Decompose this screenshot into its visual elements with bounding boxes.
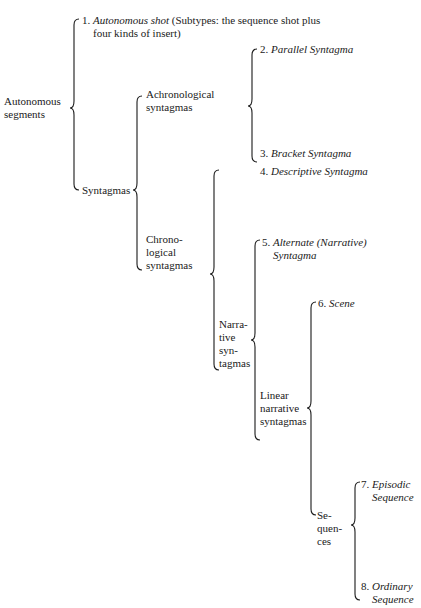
node-episodic-sequence: 7. Episodic Sequence — [361, 478, 414, 504]
node-line: logical — [146, 246, 192, 259]
node-number: 1. — [82, 14, 90, 26]
brace-autonomous-segments — [70, 19, 79, 190]
node-desc: (Subtypes: the sequence shot plus — [172, 14, 320, 26]
node-title: Alternate (Narrative) — [273, 236, 367, 248]
node-number: 3. — [260, 147, 268, 159]
node-title: Episodic — [372, 478, 411, 490]
node-line: syntagmas — [260, 415, 306, 428]
node-ordinary-sequence: 8. Ordinary Sequence — [361, 580, 414, 606]
node-line: Se- — [317, 509, 342, 522]
node-line: narrative — [260, 402, 306, 415]
node-line: quen- — [317, 522, 342, 535]
node-title-line2: Syntagma — [262, 249, 367, 262]
root-label: Autonomous segments — [4, 95, 61, 121]
node-sequences: Se- quen- ces — [317, 509, 342, 548]
node-line: tive — [219, 331, 250, 344]
node-narrative: Narra- tive syn- tagmas — [219, 318, 250, 370]
brace-chronological — [210, 170, 219, 370]
node-desc-line2: four kinds of insert) — [82, 27, 320, 40]
node-number: 4. — [260, 165, 268, 177]
node-title: Autonomous shot — [93, 14, 169, 26]
node-title: Bracket Syntagma — [271, 147, 351, 159]
node-number: 2. — [260, 43, 268, 55]
brace-achronological — [248, 49, 257, 162]
node-bracket-syntagma: 3. Bracket Syntagma — [260, 147, 351, 160]
node-number: 8. — [361, 580, 369, 592]
brace-syntagmas — [133, 96, 142, 270]
node-line: syntagmas — [146, 259, 192, 272]
node-title-line2: Sequence — [361, 593, 414, 606]
node-number: 6. — [318, 297, 326, 309]
root-label-line2: segments — [4, 108, 61, 121]
brace-sequences — [351, 482, 360, 600]
node-line: Linear — [260, 389, 306, 402]
node-line: Narra- — [219, 318, 250, 331]
node-syntagmas: Syntagmas — [82, 184, 130, 197]
node-title-line2: Sequence — [361, 491, 414, 504]
node-autonomous-shot: 1. Autonomous shot (Subtypes: the sequen… — [82, 14, 320, 40]
node-scene: 6. Scene — [318, 297, 355, 310]
node-descriptive-syntagma: 4. Descriptive Syntagma — [260, 165, 368, 178]
brace-linear-narrative — [307, 302, 316, 515]
node-line: ces — [317, 535, 342, 548]
node-line: syntagmas — [146, 101, 214, 114]
root-label-line1: Autonomous — [4, 95, 61, 108]
node-title: Ordinary — [372, 580, 413, 592]
node-linear-narrative: Linear narrative syntagmas — [260, 389, 306, 428]
node-title: Descriptive Syntagma — [271, 165, 368, 177]
node-title: Parallel Syntagma — [271, 43, 353, 55]
node-line: syn- — [219, 344, 250, 357]
node-line: Achronological — [146, 88, 214, 101]
brace-narrative — [251, 240, 260, 440]
node-title: Scene — [329, 297, 355, 309]
node-chronological: Chrono- logical syntagmas — [146, 233, 192, 272]
node-line: Chrono- — [146, 233, 192, 246]
node-line: tagmas — [219, 357, 250, 370]
node-number: 5. — [262, 236, 270, 248]
node-number: 7. — [361, 478, 369, 490]
node-parallel-syntagma: 2. Parallel Syntagma — [260, 43, 353, 56]
node-alternate-syntagma: 5. Alternate (Narrative) Syntagma — [262, 236, 367, 262]
node-achronological: Achronological syntagmas — [146, 88, 214, 114]
